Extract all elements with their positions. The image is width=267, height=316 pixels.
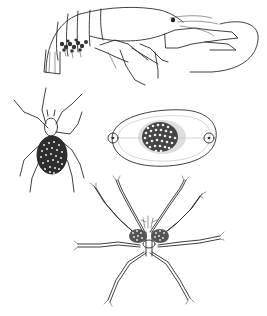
egg-capsule-figure [108, 110, 216, 167]
capsule-egg-cluster [142, 122, 178, 152]
sea-spider-figure [74, 176, 224, 306]
crayfish-figure [44, 7, 258, 85]
spider-egg-mass [37, 136, 67, 174]
spider-figure [14, 88, 84, 192]
illustration-plate [0, 0, 267, 316]
arthropod-line-drawing [0, 0, 267, 316]
crayfish-egg-cluster [60, 38, 88, 52]
